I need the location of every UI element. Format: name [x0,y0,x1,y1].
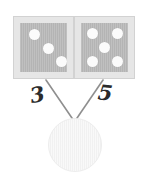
dot-pip [112,28,123,39]
dot-pip [87,56,98,67]
right-dot-card-surface [81,23,128,72]
dot-pip [43,43,54,54]
right-addend-label: 5 [97,81,114,103]
dot-pip [29,29,40,40]
dot-pip [112,56,123,67]
dot-pip [99,42,110,53]
left-addend-label: 3 [28,83,46,106]
right-dot-card[interactable] [74,16,135,79]
number-bond-figure: 3 5 [0,0,147,172]
left-dot-card[interactable] [13,16,74,79]
dot-card-pair [13,16,135,79]
left-dot-card-surface [20,23,67,72]
dot-pip [56,56,67,67]
left-connector-line [46,80,74,121]
sum-answer-circle[interactable] [48,118,102,172]
dot-pip [87,28,98,39]
